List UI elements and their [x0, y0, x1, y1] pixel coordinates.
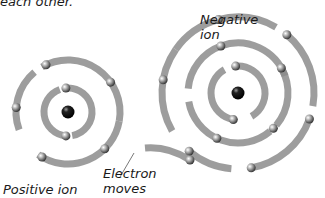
electron — [159, 75, 168, 84]
nucleus — [62, 106, 75, 119]
orbit-arc — [251, 119, 309, 168]
electron — [61, 84, 70, 93]
ion-illustration — [0, 0, 325, 198]
electron — [38, 153, 47, 162]
electron — [247, 163, 256, 172]
electron — [231, 62, 240, 71]
electron — [212, 134, 221, 143]
electron — [42, 60, 51, 69]
electron — [106, 78, 115, 87]
electron — [100, 144, 109, 153]
orbit-arc — [16, 72, 35, 130]
negative-ion-label: Negative ion — [200, 12, 258, 42]
electron — [282, 30, 291, 39]
electron — [277, 64, 286, 73]
electron — [305, 114, 314, 123]
electron — [229, 115, 238, 124]
electron — [269, 124, 278, 133]
nucleus — [232, 87, 245, 100]
positive-ion — [12, 60, 120, 164]
orbit-arc — [211, 70, 233, 120]
positive-ion-label: Positive ion — [3, 182, 78, 197]
electron — [12, 103, 21, 112]
electron-moves-label: Electron moves — [103, 166, 157, 196]
electron — [216, 42, 225, 51]
electron — [186, 156, 195, 165]
electron-path — [145, 148, 190, 160]
orbit-arc — [189, 151, 231, 168]
orbit-arc — [162, 49, 176, 131]
electron — [61, 131, 70, 140]
orbit-arc — [276, 68, 288, 125]
